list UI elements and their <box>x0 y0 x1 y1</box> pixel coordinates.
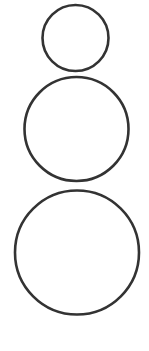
background <box>0 0 149 351</box>
stacked-circles-diagram <box>0 0 149 351</box>
